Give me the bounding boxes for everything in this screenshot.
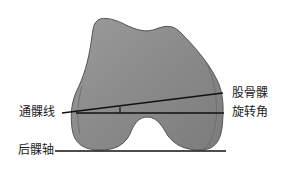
femur-bone — [71, 18, 223, 150]
rotation-angle-label-line1: 股骨髁 — [232, 86, 268, 100]
transepicondylar-line-label: 通髁线 — [19, 105, 55, 119]
rotation-angle-label-line2: 旋转角 — [232, 105, 268, 119]
posterior-condylar-axis-label: 后髁轴 — [18, 143, 54, 157]
